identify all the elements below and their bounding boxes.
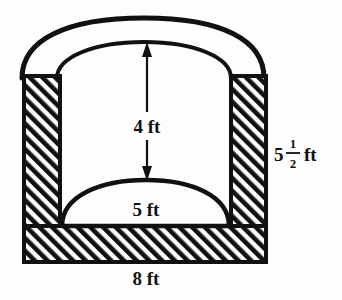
left-hatched-wall	[20, 70, 68, 235]
tunnel-cross-section-diagram: 4 ft 5 ft 8 ft 5 1 2 ft	[0, 0, 342, 300]
mound-span-label: 5 ft	[133, 199, 161, 220]
overall-width-text: 8 ft	[133, 268, 161, 289]
interior-height-text: 4 ft	[134, 116, 162, 137]
overall-height-unit: ft	[304, 144, 317, 165]
interior-height-label: 4 ft	[118, 112, 178, 140]
right-hatched-wall	[227, 70, 273, 235]
overall-height-denominator: 2	[290, 156, 297, 171]
figure-canvas: 4 ft 5 ft 8 ft 5 1 2 ft	[0, 0, 342, 300]
overall-height-whole: 5	[274, 144, 284, 165]
bottom-hatched-floor	[20, 222, 272, 268]
mound-span-text: 5 ft	[133, 199, 161, 220]
overall-height-numerator: 1	[290, 136, 297, 151]
overall-width-label: 8 ft	[133, 268, 161, 289]
